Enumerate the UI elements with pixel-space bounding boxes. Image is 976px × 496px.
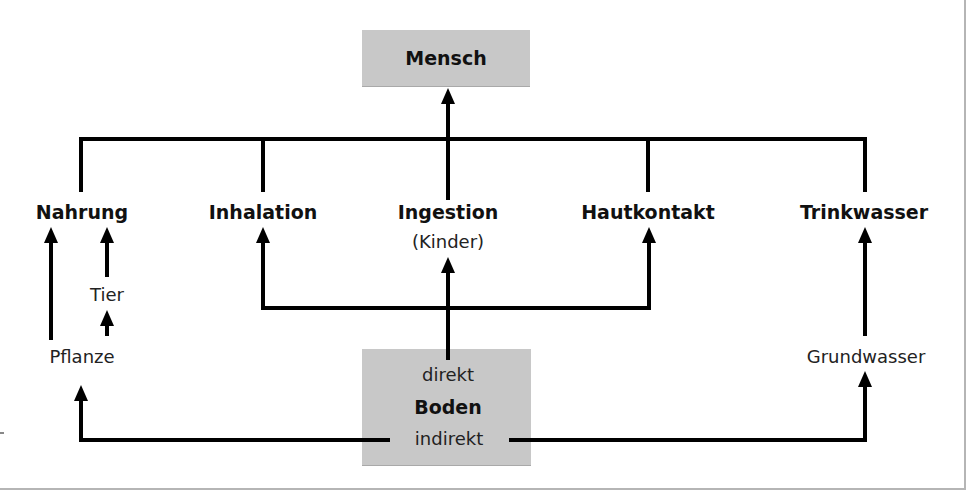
grundwasser-label: Grundwasser xyxy=(807,348,926,366)
pathway-ingestion-label: Ingestion xyxy=(398,203,499,222)
connector-lines xyxy=(0,0,976,496)
boden-label: Boden xyxy=(414,398,482,417)
pathway-ingestion-sublabel: (Kinder) xyxy=(412,233,484,251)
tier-label: Tier xyxy=(90,286,124,304)
pathway-trinkwasser-label: Trinkwasser xyxy=(800,203,928,222)
pathway-nahrung-label: Nahrung xyxy=(36,203,128,222)
pathway-inhalation-label: Inhalation xyxy=(209,203,317,222)
pathway-hautkontakt-label: Hautkontakt xyxy=(581,203,715,222)
mensch-label: Mensch xyxy=(405,49,486,68)
boden-indirekt-label: indirekt xyxy=(415,430,483,448)
boden-direkt-label: direkt xyxy=(422,366,474,384)
pflanze-label: Pflanze xyxy=(49,348,114,366)
